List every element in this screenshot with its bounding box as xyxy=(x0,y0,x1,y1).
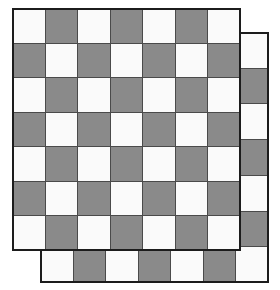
square-light xyxy=(78,147,110,181)
square-light xyxy=(46,182,78,216)
square-light xyxy=(78,216,110,250)
square-light xyxy=(111,44,143,78)
square-light xyxy=(46,44,78,78)
square-dark xyxy=(78,44,110,78)
square-dark xyxy=(236,140,268,175)
square-light xyxy=(176,182,208,216)
square-light xyxy=(176,44,208,78)
square-light xyxy=(236,33,268,68)
square-dark xyxy=(176,216,208,250)
square-light xyxy=(143,216,175,250)
square-light xyxy=(106,247,138,282)
square-light xyxy=(41,247,73,282)
square-light xyxy=(176,113,208,147)
square-light xyxy=(78,78,110,112)
square-light xyxy=(13,78,45,112)
square-light xyxy=(111,113,143,147)
square-dark xyxy=(78,113,110,147)
square-dark xyxy=(13,44,45,78)
square-dark xyxy=(13,113,45,147)
square-light xyxy=(236,247,268,282)
square-light xyxy=(236,104,268,139)
square-dark xyxy=(143,182,175,216)
square-dark xyxy=(13,182,45,216)
square-dark xyxy=(111,147,143,181)
square-dark xyxy=(208,44,240,78)
square-light xyxy=(111,182,143,216)
square-dark xyxy=(46,216,78,250)
square-light xyxy=(46,113,78,147)
square-dark xyxy=(46,147,78,181)
square-dark xyxy=(139,247,171,282)
square-light xyxy=(171,247,203,282)
square-dark xyxy=(143,44,175,78)
square-dark xyxy=(46,9,78,43)
square-light xyxy=(13,147,45,181)
square-dark xyxy=(46,78,78,112)
square-light xyxy=(78,9,110,43)
square-dark xyxy=(208,182,240,216)
figure-canvas xyxy=(0,0,280,290)
square-light xyxy=(143,147,175,181)
square-dark xyxy=(78,182,110,216)
square-light xyxy=(143,78,175,112)
square-dark xyxy=(176,78,208,112)
square-light xyxy=(143,9,175,43)
square-dark xyxy=(208,113,240,147)
square-dark xyxy=(176,147,208,181)
square-dark xyxy=(111,9,143,43)
square-dark xyxy=(236,212,268,247)
square-dark xyxy=(236,69,268,104)
square-light xyxy=(208,9,240,43)
square-dark xyxy=(74,247,106,282)
square-light xyxy=(236,176,268,211)
square-light xyxy=(13,9,45,43)
square-light xyxy=(13,216,45,250)
square-light xyxy=(208,216,240,250)
square-light xyxy=(208,147,240,181)
square-dark xyxy=(204,247,236,282)
front-board xyxy=(12,8,241,251)
square-dark xyxy=(143,113,175,147)
square-dark xyxy=(111,216,143,250)
square-dark xyxy=(176,9,208,43)
square-dark xyxy=(111,78,143,112)
square-light xyxy=(208,78,240,112)
